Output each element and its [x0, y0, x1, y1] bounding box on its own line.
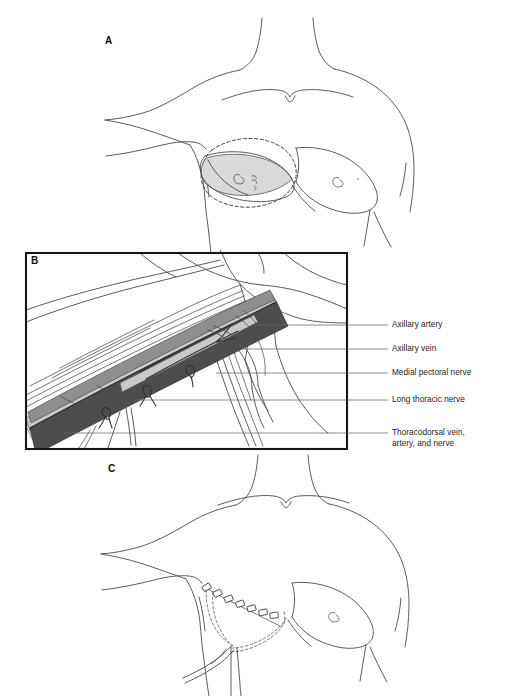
panel-letter-a: A: [105, 36, 112, 46]
panel-a-artwork: [105, 18, 414, 278]
callout-axillary-artery: Axillary artery: [392, 320, 442, 331]
callout-long-thoracic-nerve: Long thoracic nerve: [392, 395, 465, 406]
panel-letter-c: C: [108, 464, 115, 474]
medical-illustration-figure: .ln { fill:none; stroke:#4a4a4a; stroke-…: [0, 0, 512, 696]
panel-letter-b: B: [31, 256, 38, 266]
callout-medial-pectoral-nerve: Medial pectoral nerve: [392, 368, 471, 379]
panel-c-artwork: [101, 455, 409, 696]
panel-b-external-leaders: [347, 325, 388, 433]
panel-b-artwork: [26, 253, 388, 454]
callout-axillary-vein: Axillary vein: [392, 344, 436, 355]
staple-row: [202, 583, 279, 619]
callout-thoracodorsal-bundle: Thoracodorsal vein, artery, and nerve: [392, 428, 465, 449]
